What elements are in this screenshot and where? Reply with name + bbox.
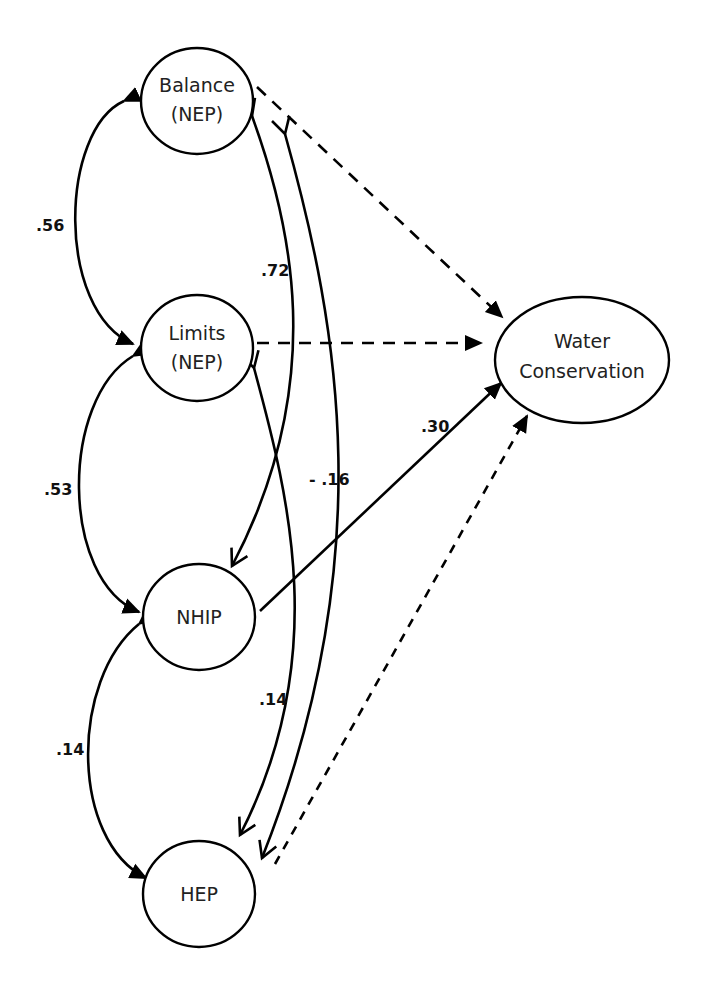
coef-balance-limits: .56 — [36, 216, 64, 235]
covariance-nhip-hep — [88, 624, 146, 878]
node-balance-label-2: (NEP) — [171, 103, 224, 125]
node-limits-label-1: Limits — [169, 322, 226, 344]
covariance-limits-nhip — [79, 356, 139, 612]
path-nhip-water — [260, 383, 501, 611]
path-diagram: Balance (NEP) Limits (NEP) NHIP HEP Wate… — [0, 0, 708, 987]
node-water-label-2: Conservation — [519, 360, 645, 382]
coef-limits-nhip: .53 — [44, 480, 72, 499]
node-hep: HEP — [143, 841, 255, 947]
node-water-conservation: Water Conservation — [495, 297, 669, 423]
node-nhip: NHIP — [143, 564, 255, 670]
node-hep-label: HEP — [180, 883, 218, 905]
coef-balance-hep: - .16 — [309, 470, 350, 489]
node-water-label-1: Water — [554, 330, 610, 352]
coef-balance-nhip: .72 — [261, 261, 289, 280]
covariance-balance-limits — [75, 101, 133, 344]
node-limits: Limits (NEP) — [141, 295, 253, 401]
node-limits-label-2: (NEP) — [171, 351, 224, 373]
node-balance-label-1: Balance — [159, 74, 235, 96]
coef-limits-hep: .14 — [259, 690, 287, 709]
node-nhip-label: NHIP — [176, 606, 222, 628]
coef-nhip-water: .30 — [421, 417, 449, 436]
coef-nhip-hep: .14 — [56, 740, 84, 759]
path-balance-water — [257, 87, 502, 317]
node-balance: Balance (NEP) — [141, 48, 253, 154]
